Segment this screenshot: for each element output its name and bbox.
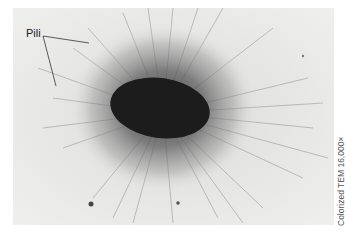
- pili-label: Pili: [26, 27, 41, 39]
- bacterium-illustration: [13, 8, 334, 225]
- micrograph: [13, 8, 334, 225]
- magnification-caption: Colorized TEM 16,000×: [334, 134, 348, 226]
